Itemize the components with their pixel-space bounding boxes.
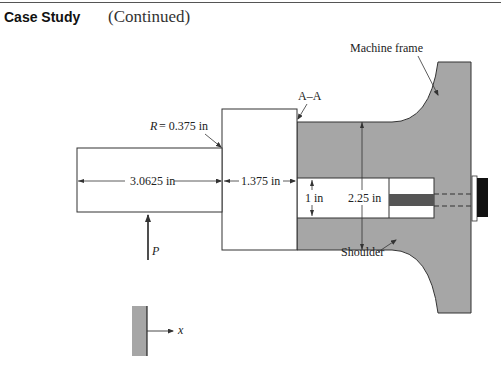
block-length-label: 1.375 in [241,174,280,188]
machine-frame-label: Machine frame [350,41,423,55]
shaft-diagram: 3.0625 in 1.375 in 1 in 2.25 in R = 0.37… [0,0,501,371]
radius-symbol: R [149,119,158,133]
shaft-length-label: 3.0625 in [130,174,175,188]
rod [389,194,434,206]
outer-diameter-label: 2.25 in [348,191,381,205]
section-label: A–A [298,89,322,103]
bore-diameter-label: 1 in [305,191,323,205]
axis-label: x [177,323,184,337]
bolt-head [477,178,488,217]
bolt-washer [472,176,477,221]
force-label: P [151,244,160,258]
shoulder-label: Shoulder [341,245,384,259]
wall-symbol [132,306,147,356]
radius-label: = 0.375 in [159,119,208,133]
